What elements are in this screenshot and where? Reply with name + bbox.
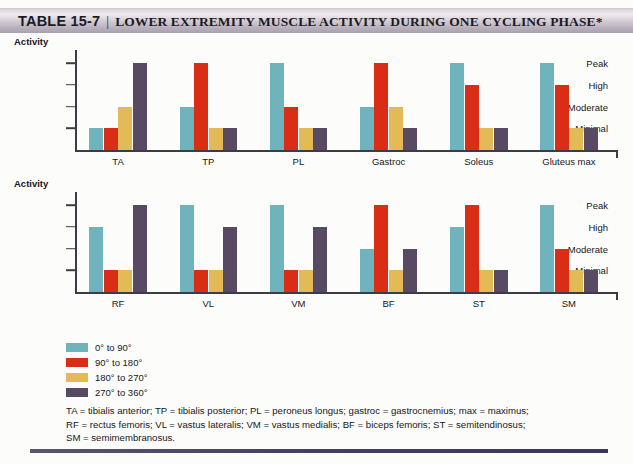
x-axis-line: [75, 150, 618, 152]
bar-sm-series-0: [540, 205, 554, 292]
bar-vl-series-3: [223, 227, 237, 292]
y-tick-label-peak: Peak: [586, 58, 608, 69]
legend-item: 180° to 270°: [66, 371, 148, 384]
bar-st-series-2: [479, 270, 493, 292]
y-tick-label-high: High: [588, 79, 608, 90]
bar-gastroc-series-1: [374, 63, 388, 150]
bar-ta-series-2: [118, 107, 132, 150]
x-category-label-pl: PL: [293, 156, 305, 167]
bar-vl-series-0: [180, 205, 194, 292]
bar-rf-series-2: [118, 270, 132, 292]
x-axis-end-cap: [616, 292, 618, 300]
bar-sm-series-3: [584, 270, 598, 292]
legend-label: 90° to 180°: [95, 357, 142, 368]
x-category-label-ta: TA: [112, 156, 123, 167]
y-tick-label-high: High: [588, 221, 608, 232]
x-category-label-sm: SM: [562, 298, 576, 309]
bar-st-series-0: [450, 227, 464, 292]
bar-rf-series-0: [89, 227, 103, 292]
bar-st-series-3: [494, 270, 508, 292]
bottom-divider: [30, 449, 608, 453]
x-category-label-vm: VM: [291, 298, 305, 309]
y-tick-label-moderate: Moderate: [568, 243, 608, 254]
bar-st-series-1: [465, 205, 479, 292]
bar-pl-series-2: [299, 128, 313, 150]
x-axis-line: [75, 292, 618, 294]
bar-sm-series-2: [569, 270, 583, 292]
bar-tp-series-0: [180, 107, 194, 150]
legend-swatch-icon: [66, 388, 88, 397]
y-tick-mark-peak: [66, 204, 75, 206]
chart-1-activity-label: Activity: [14, 36, 48, 47]
bar-rf-series-1: [104, 270, 118, 292]
bar-bf-series-2: [389, 270, 403, 292]
legend-label: 0° to 90°: [95, 342, 132, 353]
y-tick-mark-moderate: [66, 248, 75, 250]
legend-item: 270° to 360°: [66, 386, 148, 399]
x-category-label-vl: VL: [202, 298, 214, 309]
chart-2-activity-label: Activity: [14, 178, 48, 189]
legend-item: 90° to 180°: [66, 356, 148, 369]
bar-gluteus-max-series-2: [569, 128, 583, 150]
legend-item: 0° to 90°: [66, 341, 148, 354]
bar-gastroc-series-3: [403, 128, 417, 150]
footnote-line: RF = rectus femoris; VL = vastus lateral…: [66, 418, 606, 432]
bar-vl-series-1: [194, 270, 208, 292]
bar-bf-series-1: [374, 205, 388, 292]
bar-ta-series-3: [133, 63, 147, 150]
bar-ta-series-0: [89, 128, 103, 150]
y-tick-mark-minimal: [66, 127, 75, 129]
y-tick-mark-high: [66, 84, 75, 86]
bar-pl-series-0: [270, 63, 284, 150]
table-title: LOWER EXTREMITY MUSCLE ACTIVITY DURING O…: [115, 14, 602, 30]
bar-soleus-series-3: [494, 128, 508, 150]
bar-tp-series-3: [223, 128, 237, 150]
legend-label: 180° to 270°: [95, 372, 148, 383]
y-tick-mark-moderate: [66, 106, 75, 108]
x-category-label-tp: TP: [202, 156, 214, 167]
y-axis-labels: [14, 50, 76, 150]
y-axis-labels: [14, 192, 76, 292]
bar-soleus-series-1: [465, 85, 479, 150]
bar-rf-series-3: [133, 205, 147, 292]
bar-vm-series-0: [270, 205, 284, 292]
footnote-abbreviations: TA = tibialis anterior; TP = tibialis po…: [66, 404, 606, 445]
y-tick-mark-minimal: [66, 269, 75, 271]
y-tick-mark-peak: [66, 62, 75, 64]
bar-soleus-series-2: [479, 128, 493, 150]
bar-pl-series-1: [284, 107, 298, 150]
x-category-label-bf: BF: [383, 298, 395, 309]
bar-ta-series-1: [104, 128, 118, 150]
chart-2-plot-area: PeakHighModerateMinimalRFVLVMBFSTSM: [14, 192, 618, 314]
x-category-label-gluteus-max: Gluteus max: [542, 156, 595, 167]
bar-pl-series-3: [313, 128, 327, 150]
x-category-label-rf: RF: [112, 298, 125, 309]
bar-vl-series-2: [209, 270, 223, 292]
bar-vm-series-2: [299, 270, 313, 292]
bar-gluteus-max-series-3: [584, 128, 598, 150]
bar-vm-series-1: [284, 270, 298, 292]
bar-bf-series-3: [403, 249, 417, 292]
y-tick-label-peak: Peak: [586, 200, 608, 211]
legend-swatch-icon: [66, 343, 88, 352]
x-category-label-soleus: Soleus: [464, 156, 493, 167]
table-number: TABLE 15-7: [18, 13, 100, 29]
bar-gluteus-max-series-0: [540, 63, 554, 150]
table-header-text: TABLE 15-7 | LOWER EXTREMITY MUSCLE ACTI…: [0, 13, 603, 30]
table-header-separator: |: [106, 14, 109, 30]
bar-tp-series-2: [209, 128, 223, 150]
bar-vm-series-3: [313, 227, 327, 292]
bar-bf-series-0: [360, 249, 374, 292]
table-figure-page: TABLE 15-7 | LOWER EXTREMITY MUSCLE ACTI…: [0, 0, 633, 464]
legend: 0° to 90°90° to 180°180° to 270°270° to …: [66, 341, 148, 401]
footnote-line: SM = semimembranosus.: [66, 431, 606, 445]
legend-swatch-icon: [66, 358, 88, 367]
x-axis-end-cap: [616, 150, 618, 158]
table-header-band: TABLE 15-7 | LOWER EXTREMITY MUSCLE ACTI…: [0, 8, 633, 33]
legend-swatch-icon: [66, 373, 88, 382]
chart-1-plot-area: PeakHighModerateMinimalTATPPLGastrocSole…: [14, 50, 618, 172]
bar-gastroc-series-0: [360, 107, 374, 150]
y-tick-mark-high: [66, 226, 75, 228]
bar-soleus-series-0: [450, 63, 464, 150]
bar-tp-series-1: [194, 63, 208, 150]
